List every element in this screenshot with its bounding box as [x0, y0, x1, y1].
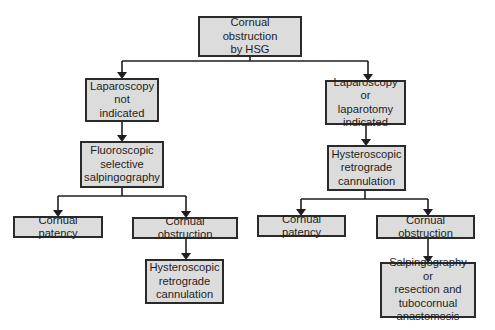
node-label: Fluoroscopic selective salpingography: [84, 144, 160, 185]
node-left-hysteroscopic-retrograde-cannulation: Hysteroscopic retrograde cannulation: [145, 259, 224, 304]
node-salpingography-or-resection-tubocornual-anastomosis: Salpingography or resection and tubocorn…: [380, 262, 476, 318]
flowchart: Cornual obstruction by HSG Laparoscopy n…: [0, 0, 495, 330]
node-right-cornual-obstruction: Cornual obstruction: [376, 215, 475, 239]
node-right-cornual-patency: Cornual patency: [257, 215, 346, 237]
node-right-hysteroscopic-retrograde-cannulation: Hysteroscopic retrograde cannulation: [327, 145, 406, 191]
node-label: Cornual obstruction: [381, 214, 470, 241]
node-label: Cornual patency: [262, 213, 341, 240]
node-label: Hysteroscopic retrograde cannulation: [149, 261, 219, 302]
node-fluoroscopic-selective-salpingography: Fluoroscopic selective salpingography: [80, 141, 164, 188]
node-label: Cornual patency: [18, 214, 98, 241]
node-left-cornual-obstruction: Cornual obstruction: [132, 217, 238, 239]
node-label: Salpingography or resection and tubocorn…: [385, 256, 471, 324]
node-label: Cornual obstruction by HSG: [203, 16, 297, 57]
node-left-cornual-patency: Cornual patency: [13, 216, 103, 238]
node-laparoscopy-or-laparotomy-indicated: Laparoscopy or laparotomy indicated: [325, 80, 406, 125]
node-label: Hysteroscopic retrograde cannulation: [331, 148, 401, 189]
node-laparoscopy-not-indicated: Laparoscopy not indicated: [85, 78, 159, 122]
node-label: Cornual obstruction: [137, 215, 233, 242]
node-label: Laparoscopy not indicated: [90, 80, 154, 121]
node-label: Laparoscopy or laparotomy indicated: [330, 76, 401, 130]
node-root-cornual-obstruction-by-hsg: Cornual obstruction by HSG: [198, 16, 302, 57]
